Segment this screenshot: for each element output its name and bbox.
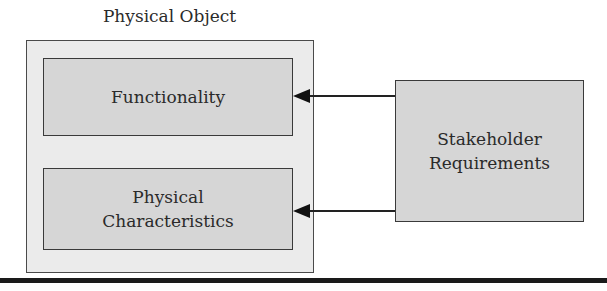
- arrows-layer: [0, 0, 607, 291]
- arrow-to-physical-characteristics: [293, 204, 395, 218]
- arrowhead-icon: [293, 204, 310, 218]
- arrowhead-icon: [293, 89, 310, 103]
- bottom-rule-divider: [0, 278, 607, 283]
- arrow-to-functionality: [293, 89, 395, 103]
